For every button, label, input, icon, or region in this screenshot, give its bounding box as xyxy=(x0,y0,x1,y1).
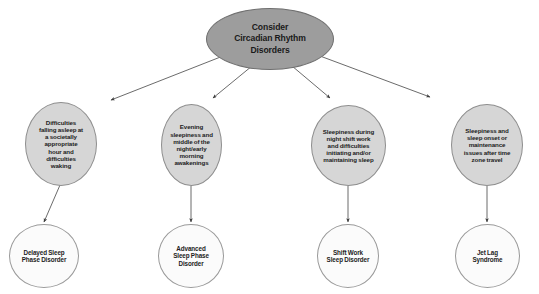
symptom-node-label: Evening sleepiness and middle of the nig… xyxy=(166,123,217,166)
diagnosis-node-label: Advanced Sleep Phase Disorder xyxy=(163,245,218,267)
symptom-node-shift-work[interactable]: Sleepiness during night shift work and d… xyxy=(311,105,386,186)
diagnosis-node-label: Shift Work Sleep Disorder xyxy=(322,249,374,264)
edge-root-to-symptom-3 xyxy=(292,66,330,98)
diagnosis-node-jet-lag-syndrome[interactable]: Jet Lag Syndrome xyxy=(455,224,520,288)
edge-root-to-symptom-2 xyxy=(213,66,252,98)
symptom-node-label: Difficulties falling asleep at a societa… xyxy=(31,119,92,169)
root-node-label: Consider Circadian Rhythm Disorders xyxy=(214,22,326,56)
root-node-circadian-rhythm-disorders[interactable]: Consider Circadian Rhythm Disorders xyxy=(206,8,334,70)
symptom-node-advanced-sleep-phase[interactable]: Evening sleepiness and middle of the nig… xyxy=(161,104,222,186)
symptom-node-label: Sleepiness during night shift work and d… xyxy=(317,128,380,164)
clipped-caption-strip xyxy=(0,286,539,294)
edge-root-to-symptom-1 xyxy=(111,56,223,100)
diagnosis-node-label: Jet Lag Syndrome xyxy=(460,249,514,264)
diagram-canvas: Consider Circadian Rhythm Disorders Diff… xyxy=(0,0,539,294)
edge-symptom-1-to-diagnosis-1 xyxy=(44,185,60,222)
edge-root-to-symptom-4 xyxy=(320,56,430,97)
diagnosis-node-advanced-sleep-phase-disorder[interactable]: Advanced Sleep Phase Disorder xyxy=(158,224,224,288)
diagnosis-node-shift-work-sleep-disorder[interactable]: Shift Work Sleep Disorder xyxy=(317,224,379,288)
symptom-node-jet-lag[interactable]: Sleepiness and sleep onset or maintenanc… xyxy=(451,104,523,186)
diagnosis-node-delayed-sleep-phase-disorder[interactable]: Delayed Sleep Phase Disorder xyxy=(9,224,79,288)
diagnosis-node-label: Delayed Sleep Phase Disorder xyxy=(15,249,74,264)
symptom-node-delayed-sleep-phase[interactable]: Difficulties falling asleep at a societa… xyxy=(25,102,97,186)
symptom-node-label: Sleepiness and sleep onset or maintenanc… xyxy=(457,127,518,163)
